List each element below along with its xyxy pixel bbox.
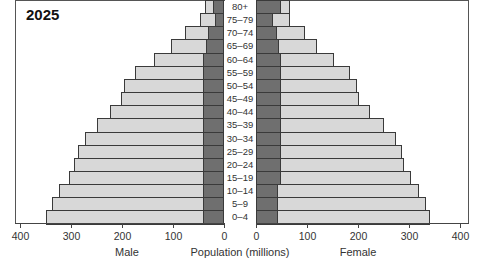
male-bar-inner <box>203 132 224 146</box>
female-bar-inner <box>256 53 281 67</box>
male-bar-inner <box>203 92 224 106</box>
male-bar <box>59 184 224 198</box>
age-group-label: 40–44 <box>224 105 256 118</box>
male-tick-label: 100 <box>165 230 183 242</box>
male-tick-label: 0 <box>222 230 228 242</box>
male-bar-inner <box>203 184 224 198</box>
female-bar-inner <box>256 66 281 80</box>
male-tick-label: 400 <box>12 230 30 242</box>
female-bar-inner <box>256 118 281 133</box>
female-bar-inner <box>256 0 281 14</box>
age-group-label: 70–74 <box>224 26 256 39</box>
age-group-label: 50–54 <box>224 79 256 92</box>
age-group-label: 5–9 <box>224 197 256 210</box>
male-tick <box>71 224 72 228</box>
female-bar <box>256 184 419 198</box>
female-bar-inner <box>256 13 273 27</box>
male-tick-label: 300 <box>63 230 81 242</box>
age-group-label: 65–69 <box>224 39 256 52</box>
female-tick-label: 200 <box>350 230 368 242</box>
female-tick-label: 100 <box>299 230 317 242</box>
male-bar <box>69 171 224 185</box>
female-tick <box>256 224 257 228</box>
male-bar-inner <box>203 66 224 80</box>
male-bar-inner <box>208 26 224 40</box>
age-group-label: 45–49 <box>224 92 256 105</box>
male-bar-inner <box>213 0 224 14</box>
female-bar-inner <box>256 79 281 93</box>
male-tick <box>122 224 123 228</box>
female-tick-label: 0 <box>254 230 260 242</box>
female-bar-inner <box>256 92 281 106</box>
female-bar-inner <box>256 26 277 40</box>
male-tick-label: 200 <box>114 230 132 242</box>
male-x-axis <box>15 223 225 224</box>
male-bar-inner <box>215 13 224 27</box>
male-bar-inner <box>203 145 224 159</box>
age-group-label: 55–59 <box>224 66 256 79</box>
male-bar-inner <box>203 79 224 93</box>
age-group-label: 30–34 <box>224 132 256 145</box>
male-tick <box>20 224 21 228</box>
male-tick <box>173 224 174 228</box>
female-bar-inner <box>256 145 281 159</box>
male-bar-inner <box>203 197 224 211</box>
male-bar-inner <box>203 105 224 119</box>
male-tick <box>224 224 225 228</box>
female-axis-label: Female <box>340 246 377 258</box>
female-tick-label: 300 <box>401 230 419 242</box>
male-bar <box>52 197 224 211</box>
age-group-label: 20–24 <box>224 158 256 171</box>
male-bar-inner <box>203 158 224 172</box>
age-group-label: 0–4 <box>224 210 256 223</box>
male-bar-inner <box>203 53 224 67</box>
female-bar-inner <box>256 197 278 211</box>
female-bar-inner <box>256 39 279 54</box>
male-bar-inner <box>203 171 224 185</box>
female-tick-label: 400 <box>452 230 470 242</box>
female-bar-inner <box>256 132 281 146</box>
female-tick <box>460 224 461 228</box>
age-group-label: 15–19 <box>224 171 256 184</box>
age-group-label: 10–14 <box>224 184 256 197</box>
female-tick <box>358 224 359 228</box>
population-axis-title: Population (millions) <box>190 246 289 258</box>
chart-title-year: 2025 <box>26 6 59 23</box>
female-tick <box>307 224 308 228</box>
male-axis-label: Male <box>115 246 139 258</box>
age-group-label: 35–39 <box>224 118 256 131</box>
age-group-label: 60–64 <box>224 53 256 66</box>
age-group-label: 75–79 <box>224 13 256 26</box>
female-bar-inner <box>256 184 278 198</box>
female-bar-inner <box>256 105 281 119</box>
male-bar <box>74 158 224 172</box>
female-bar-inner <box>256 171 281 185</box>
age-group-label: 80+ <box>224 0 256 13</box>
female-bar <box>256 197 426 211</box>
female-bar-inner <box>256 158 281 172</box>
age-group-label: 25–29 <box>224 145 256 158</box>
female-tick <box>409 224 410 228</box>
male-bar-inner <box>206 39 224 54</box>
female-x-axis <box>256 223 469 224</box>
male-bar-inner <box>203 118 224 133</box>
